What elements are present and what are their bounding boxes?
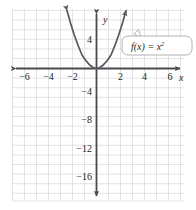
y-axis-label: y <box>102 14 108 25</box>
x-tick-label: 2 <box>118 71 123 82</box>
x-axis-label: x <box>178 72 184 83</box>
x-tick-label: 6 <box>168 71 173 82</box>
graph-figure: −6 −4 −2 2 4 6 4 −4 −8 −12 −16 x y f(x) … <box>0 0 196 210</box>
x-tick-label: −6 <box>19 71 30 82</box>
callout-expression: f(x) = x <box>131 41 162 53</box>
y-tick-label: −16 <box>76 171 92 182</box>
x-tick-label: 4 <box>142 71 147 82</box>
x-tick-label: −4 <box>43 71 54 82</box>
y-tick-label: −4 <box>81 86 92 97</box>
coordinate-plane-svg: −6 −4 −2 2 4 6 4 −4 −8 −12 −16 x y f(x) … <box>0 0 196 210</box>
y-tick-label: 4 <box>87 34 92 45</box>
x-tick-label: −2 <box>67 71 78 82</box>
y-tick-label: −8 <box>81 114 92 125</box>
callout-label: f(x) = x2 <box>131 40 165 53</box>
y-tick-label: −12 <box>76 143 92 154</box>
